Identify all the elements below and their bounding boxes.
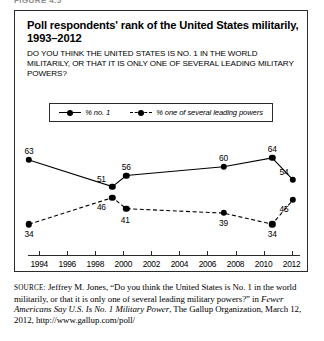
x-axis-label: 2002	[143, 259, 160, 269]
x-axis-tick	[292, 251, 293, 255]
x-axis-tick	[95, 251, 96, 255]
data-point-label: 45	[280, 204, 289, 214]
plot-lines	[25, 131, 299, 241]
x-axis-tick	[151, 251, 152, 255]
x-axis-tick	[123, 251, 124, 255]
source-prefix: SOURCE:	[14, 284, 46, 292]
data-point-label: 56	[122, 162, 131, 172]
source-line3a: powers?” in	[217, 294, 261, 304]
x-axis-tick	[264, 251, 265, 255]
x-axis-label: 1998	[87, 259, 104, 269]
data-point-label: 60	[219, 153, 228, 163]
figure-label: FIGURE 4.5	[14, 0, 62, 5]
source-line1: Jeffrey M. Jones, “Do you think the Unit…	[46, 282, 261, 292]
x-axis-label: 1996	[59, 259, 76, 269]
x-axis-label: 2008	[227, 259, 244, 269]
data-point-label: 34	[268, 229, 277, 239]
x-axis-label: 2004	[171, 259, 188, 269]
x-axis-label: 1994	[30, 259, 47, 269]
chart-title-line2: 1993–2012	[27, 32, 82, 44]
legend-item-no1[interactable]: % no. 1	[59, 108, 110, 117]
data-point-label: 51	[97, 174, 106, 184]
x-axis-tick	[236, 251, 237, 255]
figure-container: FIGURE 4.5 Poll respondents' rank of the…	[0, 0, 324, 341]
legend-label-several-powers: % one of several leading powers	[156, 108, 263, 117]
source-line3b: , The	[169, 304, 187, 314]
legend-item-several-powers[interactable]: % one of several leading powers	[130, 108, 263, 117]
data-point-label: 46	[97, 202, 106, 212]
legend-solid-line-icon	[59, 109, 81, 116]
x-axis-label: 2000	[115, 259, 132, 269]
x-axis-tick	[39, 251, 40, 255]
data-point-label: 64	[268, 144, 277, 154]
chart-frame: Poll respondents' rank of the United Sta…	[14, 10, 308, 272]
x-axis-label: 2010	[255, 259, 272, 269]
x-axis-line	[28, 255, 300, 256]
series-line-0	[29, 158, 293, 187]
data-point-label: 39	[219, 218, 228, 228]
x-axis-tick	[67, 251, 68, 255]
chart-legend: % no. 1 % one of several leading powers	[49, 103, 273, 122]
series-line-1	[29, 198, 293, 225]
data-point-label: 41	[121, 215, 130, 225]
chart-title: Poll respondents' rank of the United Sta…	[27, 19, 299, 44]
data-point-label: 34	[25, 229, 34, 239]
data-point-label: 63	[25, 146, 34, 156]
legend-dashed-line-icon	[130, 109, 152, 116]
legend-label-no1: % no. 1	[85, 108, 110, 117]
chart-question: DO YOU THINK THE UNITED STATES IS NO. 1 …	[27, 49, 301, 78]
x-axis: 1994199619982000200220042006200820102012	[28, 255, 300, 271]
data-point-label: 54	[280, 167, 289, 177]
x-axis-tick	[207, 251, 208, 255]
chart-title-line1: Poll respondents' rank of the United Sta…	[27, 19, 298, 31]
source-citation: SOURCE: Jeffrey M. Jones, “Do you think …	[14, 282, 314, 325]
x-axis-tick	[179, 251, 180, 255]
plot-area: 635156606454344641393445	[25, 131, 299, 241]
x-axis-label: 2006	[199, 259, 216, 269]
x-axis-label: 2012	[283, 259, 300, 269]
